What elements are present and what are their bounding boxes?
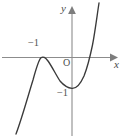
x-axis-label: x — [114, 59, 119, 70]
x-intercept-label: −1 — [28, 38, 39, 49]
cubic-graph-figure: y x O −1 −1 — [0, 0, 126, 139]
cubic-curve — [16, 3, 99, 134]
origin-label: O — [63, 58, 70, 68]
y-axis-arrow-icon — [68, 6, 76, 14]
graph-canvas — [0, 0, 126, 139]
y-axis-label: y — [61, 3, 66, 14]
y-minimum-label: −1 — [57, 88, 68, 99]
